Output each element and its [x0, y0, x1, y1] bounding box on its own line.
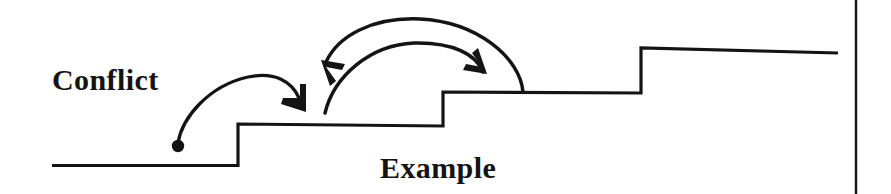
example-label: Example	[380, 151, 496, 184]
figure-container: Conflict Example	[0, 0, 891, 194]
step-diagram-svg: Conflict Example	[0, 0, 891, 194]
conflict-label: Conflict	[52, 63, 159, 96]
